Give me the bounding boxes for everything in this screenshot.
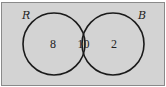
intersection-count: 10: [78, 37, 90, 51]
set-r-label: R: [21, 9, 30, 22]
b-only-count: 2: [111, 37, 117, 51]
r-only-count: 8: [50, 37, 56, 51]
set-b-label: B: [137, 9, 146, 22]
venn-diagram: R B 8 10 2: [0, 0, 166, 87]
